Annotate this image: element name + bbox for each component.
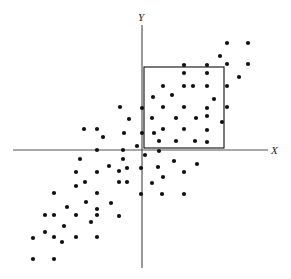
data-point: [74, 235, 78, 239]
data-point: [31, 236, 35, 240]
data-point: [52, 235, 56, 239]
data-point: [121, 148, 125, 152]
data-point: [43, 230, 47, 234]
data-point: [65, 205, 69, 209]
data-point: [118, 105, 122, 109]
data-point: [182, 127, 186, 131]
data-point: [156, 165, 160, 169]
data-point: [95, 148, 99, 152]
data-point: [182, 63, 186, 67]
data-point: [205, 71, 209, 75]
data-point: [182, 170, 186, 174]
data-point: [170, 93, 174, 97]
data-point: [101, 135, 105, 139]
data-point: [125, 180, 129, 184]
data-point: [117, 180, 121, 184]
data-point: [194, 116, 198, 120]
data-point: [237, 75, 241, 79]
data-point: [161, 105, 165, 109]
data-point: [205, 106, 209, 110]
data-point: [161, 127, 165, 131]
data-point: [218, 54, 222, 58]
data-point: [78, 157, 82, 161]
data-point: [95, 127, 99, 131]
data-point: [122, 131, 126, 135]
data-point: [161, 84, 165, 88]
data-point: [182, 105, 186, 109]
data-point: [82, 127, 86, 131]
data-points: [31, 41, 250, 261]
data-point: [195, 162, 199, 166]
data-point: [62, 224, 66, 228]
data-point: [31, 257, 35, 261]
data-point: [205, 128, 209, 132]
data-point: [225, 62, 229, 66]
data-point: [152, 131, 156, 135]
data-point: [193, 139, 197, 143]
y-axis-label: Y: [138, 11, 146, 23]
data-point: [52, 191, 56, 195]
data-point: [151, 95, 155, 99]
x-axis-label: X: [270, 144, 279, 156]
scatter-chart: Y X: [0, 0, 291, 279]
data-point: [205, 140, 209, 144]
data-point: [143, 153, 147, 157]
data-point: [95, 191, 99, 195]
data-point: [52, 257, 56, 261]
data-point: [60, 240, 64, 244]
data-point: [205, 63, 209, 67]
data-point: [182, 84, 186, 88]
data-point: [157, 139, 161, 143]
data-point: [117, 169, 121, 173]
data-point: [139, 166, 143, 170]
data-point: [150, 116, 154, 120]
data-point: [172, 159, 176, 163]
data-point: [83, 180, 87, 184]
data-point: [174, 116, 178, 120]
data-point: [74, 213, 78, 217]
data-point: [225, 84, 229, 88]
data-point: [205, 84, 209, 88]
data-point: [140, 106, 144, 110]
data-point: [212, 97, 216, 101]
data-point: [74, 184, 78, 188]
data-point: [220, 120, 224, 124]
data-point: [89, 220, 93, 224]
data-point: [246, 41, 250, 45]
data-point: [52, 213, 56, 217]
data-point: [160, 192, 164, 196]
data-point: [43, 213, 47, 217]
data-point: [95, 213, 99, 217]
data-point: [182, 71, 186, 75]
data-point: [74, 170, 78, 174]
data-point: [246, 62, 250, 66]
data-point: [161, 175, 165, 179]
data-point: [107, 164, 111, 168]
data-point: [139, 192, 143, 196]
data-point: [182, 192, 186, 196]
data-point: [150, 181, 154, 185]
data-point: [135, 144, 139, 148]
data-point: [225, 41, 229, 45]
data-point: [174, 139, 178, 143]
data-point: [191, 84, 195, 88]
data-point: [125, 166, 129, 170]
data-point: [95, 170, 99, 174]
data-point: [205, 114, 209, 118]
data-point: [157, 149, 161, 153]
data-point: [117, 214, 121, 218]
data-point: [127, 117, 131, 121]
data-point: [140, 131, 144, 135]
data-point: [109, 201, 113, 205]
data-point: [95, 207, 99, 211]
data-point: [84, 200, 88, 204]
data-point: [121, 157, 125, 161]
data-point: [225, 105, 229, 109]
data-point: [95, 235, 99, 239]
